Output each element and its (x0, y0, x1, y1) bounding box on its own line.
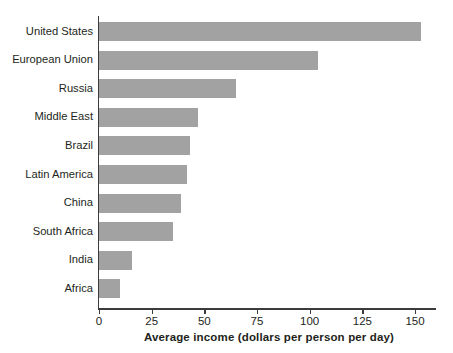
x-tick-label: 150 (395, 315, 435, 327)
bar-row (99, 251, 132, 270)
bar-row (99, 136, 190, 155)
x-tick-mark (415, 309, 416, 314)
category-label: Africa (0, 282, 93, 294)
bar-row (99, 222, 173, 241)
x-axis-title: Average income (dollars per person per d… (99, 331, 439, 343)
bar-row (99, 22, 421, 41)
bar (99, 108, 198, 127)
bar (99, 194, 181, 213)
category-label: Latin America (0, 168, 93, 180)
x-tick-label: 125 (342, 315, 382, 327)
x-tick-label: 100 (290, 315, 330, 327)
bar (99, 22, 421, 41)
bar (99, 51, 318, 70)
x-tick-label: 75 (237, 315, 277, 327)
category-label: Brazil (0, 139, 93, 151)
bar-row (99, 79, 236, 98)
category-label: China (0, 196, 93, 208)
x-tick-label: 25 (132, 315, 172, 327)
category-label: South Africa (0, 225, 93, 237)
bar-row (99, 51, 318, 70)
category-label: India (0, 253, 93, 265)
x-tick-label: 50 (184, 315, 224, 327)
bar-chart-figure: United StatesEuropean UnionRussiaMiddle … (0, 0, 453, 353)
bar (99, 222, 173, 241)
bar-row (99, 279, 120, 298)
x-tick-mark (310, 309, 311, 314)
x-tick-mark (99, 309, 100, 314)
x-tick-mark (362, 309, 363, 314)
bar (99, 279, 120, 298)
category-label: European Union (0, 53, 93, 65)
bar-row (99, 194, 181, 213)
x-axis-line (98, 308, 436, 310)
x-tick-label: 0 (79, 315, 119, 327)
category-label: Russia (0, 82, 93, 94)
bar (99, 136, 190, 155)
bar-row (99, 108, 198, 127)
bar (99, 251, 132, 270)
x-tick-mark (257, 309, 258, 314)
bar-row (99, 165, 187, 184)
category-label: United States (0, 25, 93, 37)
category-label: Middle East (0, 110, 93, 122)
x-tick-mark (152, 309, 153, 314)
bar (99, 79, 236, 98)
bar (99, 165, 187, 184)
x-tick-mark (204, 309, 205, 314)
